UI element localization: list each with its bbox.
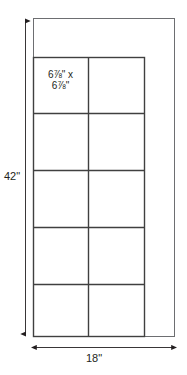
cell-size-note: 6⅞" x 6⅞"	[34, 69, 87, 91]
cell-size-note-line-2: 6⅞"	[34, 80, 87, 91]
width-dimension-label: 18"	[86, 352, 102, 364]
panel-dimension-drawing	[0, 0, 187, 375]
height-dimension-label: 42"	[4, 170, 20, 182]
diagram-canvas: 6⅞" x 6⅞" 42" 18"	[0, 0, 187, 375]
cell-size-note-line-1: 6⅞" x	[34, 69, 87, 80]
